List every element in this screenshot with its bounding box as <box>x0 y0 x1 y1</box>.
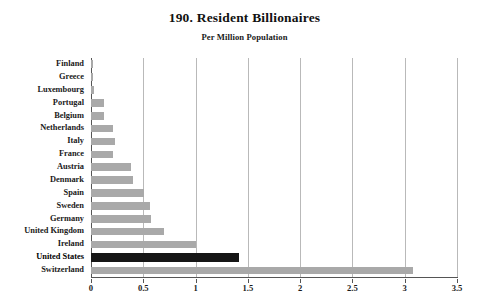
category-label-france: France <box>0 148 84 161</box>
bar-row <box>91 200 457 213</box>
bar-row <box>91 225 457 238</box>
bar-row <box>91 238 457 251</box>
bar-france <box>91 151 113 159</box>
category-label-sweden: Sweden <box>0 200 84 213</box>
bar-row <box>91 264 457 277</box>
tick-label-1.5: 1.5 <box>242 283 253 293</box>
chart-subtitle: Per Million Population <box>0 31 489 43</box>
category-label-united-kingdom: United Kingdom <box>0 225 84 238</box>
bar-row <box>91 71 457 84</box>
chart-title: 190. Resident Billionaires <box>0 10 489 26</box>
bar-row <box>91 97 457 110</box>
bar-row <box>91 161 457 174</box>
plot-area <box>91 58 457 277</box>
category-label-switzerland: Switzerland <box>0 264 84 277</box>
bar-finland <box>91 60 93 68</box>
category-label-italy: Italy <box>0 135 84 148</box>
gridline-3.5 <box>457 58 458 277</box>
category-label-finland: Finland <box>0 58 84 71</box>
category-label-belgium: Belgium <box>0 110 84 123</box>
tick-label-0: 0 <box>89 283 93 293</box>
bar-row <box>91 148 457 161</box>
category-label-ireland: Ireland <box>0 238 84 251</box>
category-label-austria: Austria <box>0 161 84 174</box>
bar-portugal <box>91 99 104 107</box>
category-label-luxembourg: Luxembourg <box>0 84 84 97</box>
bar-spain <box>91 189 144 197</box>
bar-luxembourg <box>91 86 94 94</box>
bar-row <box>91 135 457 148</box>
category-label-germany: Germany <box>0 213 84 226</box>
category-label-spain: Spain <box>0 187 84 200</box>
category-label-portugal: Portugal <box>0 97 84 110</box>
bar-row <box>91 174 457 187</box>
tick-label-2: 2 <box>298 283 302 293</box>
bar-ireland <box>91 241 196 249</box>
bar-row <box>91 84 457 97</box>
bar-row <box>91 251 457 264</box>
bar-austria <box>91 163 131 171</box>
title-block: 190. Resident Billionaires Per Million P… <box>0 10 489 43</box>
bar-row <box>91 110 457 123</box>
category-label-netherlands: Netherlands <box>0 122 84 135</box>
bar-row <box>91 122 457 135</box>
category-axis-labels: FinlandGreeceLuxembourgPortugalBelgiumNe… <box>0 58 88 277</box>
bar-switzerland <box>91 267 413 275</box>
bar-germany <box>91 215 151 223</box>
x-axis-ticks: 00.511.522.533.5 <box>0 279 489 295</box>
bar-italy <box>91 138 115 146</box>
bar-united-kingdom <box>91 228 164 236</box>
chart-figure: 190. Resident Billionaires Per Million P… <box>0 0 489 307</box>
tick-label-3: 3 <box>403 283 407 293</box>
bar-sweden <box>91 202 150 210</box>
tick-label-1: 1 <box>193 283 197 293</box>
category-label-united-states: United States <box>0 251 84 264</box>
category-label-greece: Greece <box>0 71 84 84</box>
bar-denmark <box>91 176 133 184</box>
bar-netherlands <box>91 125 113 133</box>
category-label-denmark: Denmark <box>0 174 84 187</box>
tick-label-3.5: 3.5 <box>452 283 463 293</box>
tick-label-0.5: 0.5 <box>138 283 149 293</box>
bar-series <box>91 58 457 277</box>
bar-united-states <box>91 253 239 261</box>
bar-row <box>91 58 457 71</box>
bar-row <box>91 187 457 200</box>
x-axis-line <box>91 277 458 278</box>
tick-label-2.5: 2.5 <box>347 283 358 293</box>
bar-greece <box>91 73 93 81</box>
bar-belgium <box>91 112 104 120</box>
bar-row <box>91 213 457 226</box>
